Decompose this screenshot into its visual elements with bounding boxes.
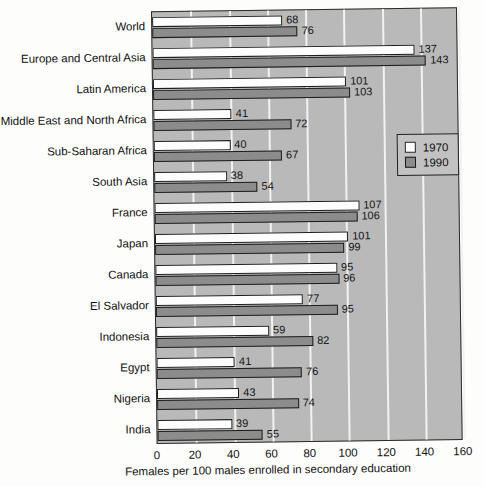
bar-1970-egypt (157, 357, 236, 368)
bar-value-label: 82 (317, 335, 329, 346)
x-tick-80: 80 (303, 447, 316, 460)
bar-group: 7795 (156, 291, 460, 321)
bar-value-label: 54 (261, 181, 273, 192)
category-label-el-salvador: El Salvador (0, 299, 149, 313)
bar-value-label: 68 (286, 15, 298, 26)
category-label-india: India (0, 423, 150, 437)
legend-label-1990: 1990 (423, 156, 449, 168)
bar-1990-canada (155, 274, 339, 286)
bar-1970-world (152, 16, 282, 28)
bar-value-label: 96 (343, 272, 355, 283)
bar-value-label: 103 (354, 87, 373, 98)
bar-group: 101103 (153, 74, 457, 104)
bar-group: 137143 (152, 44, 456, 74)
category-label-sub-saharan-africa: Sub-Saharan Africa (0, 144, 147, 158)
bar-1990-latin-america (153, 88, 350, 101)
bar-group: 5982 (156, 322, 460, 352)
category-label-nigeria: Nigeria (0, 392, 150, 406)
bar-1990-nigeria (157, 398, 299, 410)
bar-group: 4374 (157, 384, 461, 414)
bar-value-label: 77 (307, 293, 319, 304)
bar-value-label: 76 (306, 366, 318, 377)
bar-1990-indonesia (156, 336, 313, 348)
bar-1990-world (152, 27, 297, 39)
bar-value-label: 40 (234, 139, 246, 150)
bar-group: 107106 (154, 198, 458, 228)
x-tick-100: 100 (338, 446, 357, 459)
bar-value-label: 38 (231, 170, 243, 181)
bar-1990-sub-saharan-africa (154, 151, 282, 163)
category-label-egypt: Egypt (0, 361, 150, 375)
x-tick-0: 0 (154, 449, 161, 462)
bar-value-label: 39 (236, 417, 248, 428)
bar-1970-sub-saharan-africa (154, 140, 231, 151)
bar-1970-india (157, 419, 232, 430)
bar-1970-nigeria (157, 388, 239, 399)
bar-value-label: 59 (273, 324, 285, 335)
x-tick-120: 120 (377, 446, 396, 459)
bar-1990-europe-and-central-asia (153, 56, 427, 70)
category-label-south-asia: South Asia (0, 175, 147, 189)
x-tick-60: 60 (265, 448, 278, 461)
bar-group: 6876 (152, 13, 456, 43)
category-label-indonesia: Indonesia (0, 330, 149, 344)
bar-value-label: 41 (236, 108, 248, 119)
bar-group: 9596 (155, 260, 459, 290)
category-label-canada: Canada (0, 268, 149, 282)
category-label-japan: Japan (0, 237, 148, 251)
category-label-middle-east-and-north-africa: Middle East and North Africa (0, 113, 146, 127)
x-tick-40: 40 (227, 448, 240, 461)
bar-group: 3955 (157, 415, 461, 445)
category-label-france: France (0, 206, 148, 220)
chart-figure: WorldEurope and Central AsiaLatin Americ… (0, 0, 484, 486)
bar-groups: 6876137143101103417240673854107106101999… (152, 8, 456, 12)
bar-1990-south-asia (154, 182, 257, 193)
gray-square-icon (405, 157, 416, 168)
bar-value-label: 106 (361, 210, 380, 221)
plot-area: 6876137143101103417240673854107106101999… (151, 7, 463, 444)
bar-value-label: 72 (295, 118, 307, 129)
chart-legend: 1970 1990 (397, 133, 459, 176)
bar-value-label: 99 (348, 241, 360, 252)
bar-1990-japan (155, 243, 344, 255)
bar-group: 4176 (157, 353, 461, 383)
category-label-latin-america: Latin America (0, 83, 146, 97)
legend-label-1970: 1970 (423, 141, 449, 153)
bar-value-label: 143 (430, 55, 449, 66)
bar-1970-south-asia (154, 171, 227, 182)
bar-1970-el-salvador (156, 294, 303, 306)
category-axis-labels: WorldEurope and Central AsiaLatin Americ… (0, 11, 151, 446)
legend-item-1990: 1990 (405, 154, 449, 170)
bar-1970-indonesia (156, 325, 269, 336)
bar-1990-middle-east-and-north-africa (153, 120, 291, 132)
bar-1990-india (157, 429, 262, 440)
x-axis-title: Females per 100 males enrolled in second… (3, 461, 484, 479)
bar-1990-egypt (157, 367, 302, 379)
bar-value-label: 95 (342, 303, 354, 314)
bar-value-label: 43 (243, 386, 255, 397)
bar-group: 4172 (153, 105, 457, 135)
bar-1990-france (155, 211, 358, 224)
bar-value-label: 67 (286, 149, 298, 160)
gridlines (152, 8, 456, 12)
bar-value-label: 55 (267, 428, 279, 439)
x-tick-20: 20 (189, 449, 202, 462)
category-label-world: World (0, 21, 145, 35)
bar-1990-el-salvador (156, 305, 338, 317)
bar-value-label: 74 (303, 397, 315, 408)
bar-1970-middle-east-and-north-africa (153, 109, 232, 120)
legend-item-1970: 1970 (405, 139, 449, 155)
bar-group: 10199 (155, 229, 459, 259)
x-tick-140: 140 (415, 445, 434, 458)
x-tick-160: 160 (453, 445, 472, 458)
white-square-icon (405, 142, 416, 153)
bar-value-label: 76 (302, 25, 314, 36)
bar-value-label: 41 (239, 356, 251, 367)
category-label-europe-and-central-asia: Europe and Central Asia (0, 52, 146, 66)
